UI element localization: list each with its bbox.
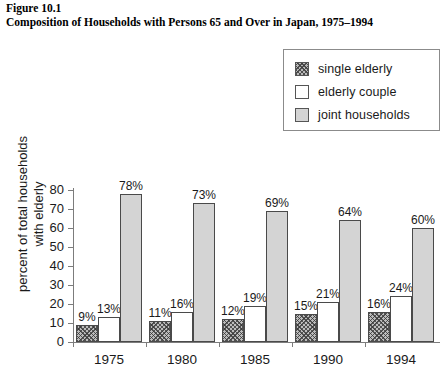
bar-couple	[317, 302, 339, 342]
x-axis-tick-label: 1975	[74, 352, 144, 367]
y-axis-tick	[68, 266, 74, 267]
bar-single	[295, 314, 317, 343]
y-axis-tick	[68, 247, 74, 248]
y-axis-tick-label: 30	[38, 277, 64, 292]
x-axis-tick	[146, 342, 147, 347]
y-axis-tick	[68, 304, 74, 305]
bar-value-label: 69%	[257, 196, 297, 210]
bar-value-label: 73%	[184, 188, 224, 202]
bar-joint	[266, 211, 288, 342]
bar-chart: percent of total households with elderly…	[0, 0, 447, 386]
bar-couple	[171, 312, 193, 342]
bar-single	[222, 319, 244, 342]
y-axis-tick	[68, 228, 74, 229]
x-axis-tick-label: 1980	[147, 352, 217, 367]
bar-couple	[390, 296, 412, 342]
bar-couple	[98, 317, 120, 342]
bar-joint	[193, 203, 215, 342]
bar-value-label: 78%	[111, 179, 151, 193]
y-axis-label-line-1: percent of total households	[15, 122, 31, 307]
bar-value-label: 64%	[330, 205, 370, 219]
bar-joint	[412, 228, 434, 342]
x-axis-tick	[292, 342, 293, 347]
y-axis-tick-label: 10	[38, 315, 64, 330]
x-axis-tick-label: 1990	[293, 352, 363, 367]
bar-joint	[120, 194, 142, 342]
bar-joint	[339, 220, 361, 342]
bar-value-label: 60%	[403, 213, 443, 227]
x-axis-line	[73, 342, 440, 343]
y-axis-tick-label: 80	[38, 182, 64, 197]
y-axis-tick	[68, 209, 74, 210]
x-axis-tick	[365, 342, 366, 347]
bar-couple	[244, 306, 266, 342]
bar-single	[76, 325, 98, 342]
x-axis-tick-label: 1994	[366, 352, 436, 367]
y-axis-tick	[68, 285, 74, 286]
x-axis-tick	[73, 342, 74, 347]
y-axis-tick-label: 0	[38, 334, 64, 349]
y-axis-tick-label: 50	[38, 239, 64, 254]
y-axis-tick-label: 70	[38, 201, 64, 216]
x-axis-tick	[219, 342, 220, 347]
y-axis-tick-label: 20	[38, 296, 64, 311]
y-axis-tick-label: 40	[38, 258, 64, 273]
y-axis-tick	[68, 190, 74, 191]
bar-single	[149, 321, 171, 342]
x-axis-tick-label: 1985	[220, 352, 290, 367]
y-axis-tick-label: 60	[38, 220, 64, 235]
bar-single	[368, 312, 390, 342]
